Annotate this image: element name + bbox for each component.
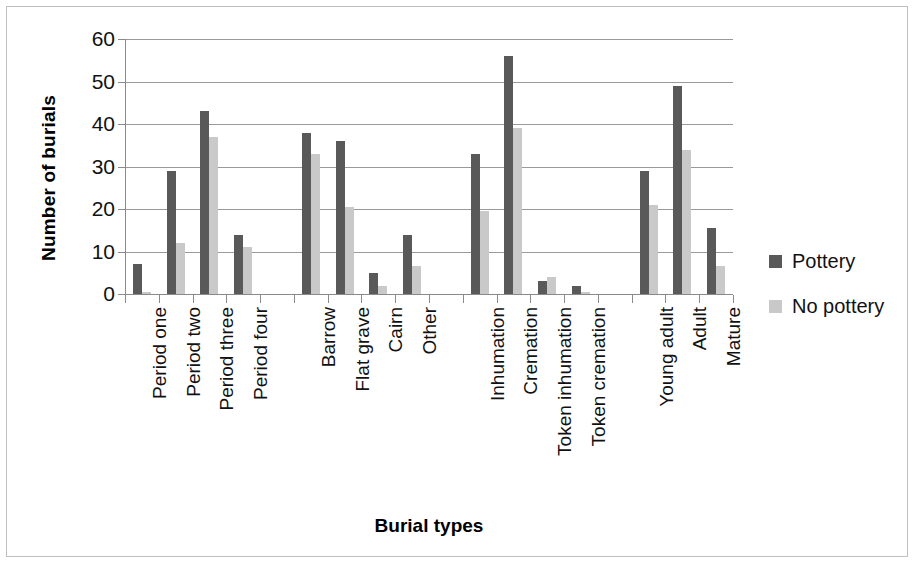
x-axis-tick-label: Flat grave <box>353 307 372 391</box>
x-axis-tick <box>193 295 194 303</box>
x-axis-tick <box>159 295 160 303</box>
x-axis-tick <box>260 295 261 303</box>
y-axis-tick-label: 60 <box>45 28 115 49</box>
chart-legend: PotteryNo pottery <box>769 250 884 340</box>
x-axis-tick <box>598 295 599 303</box>
x-axis-title: Burial types <box>125 515 733 537</box>
bar <box>504 56 513 294</box>
x-axis-tick <box>632 295 633 303</box>
x-axis-tick <box>530 295 531 303</box>
x-axis-tick-label: Period one <box>150 307 169 399</box>
x-axis-tick <box>497 295 498 303</box>
gridline <box>125 124 733 125</box>
y-axis-tick <box>118 294 125 295</box>
x-axis-tick-label: Mature <box>724 307 743 366</box>
y-axis-tick <box>118 167 125 168</box>
gridline <box>125 39 733 40</box>
x-axis-tick-label: Period four <box>251 307 270 400</box>
x-axis-tick <box>294 295 295 303</box>
y-axis-tick-label: 30 <box>45 156 115 177</box>
legend-swatch-icon <box>769 255 782 268</box>
bar <box>378 286 387 295</box>
bar <box>209 137 218 294</box>
bar <box>133 264 142 294</box>
x-axis-tick-label: Other <box>420 307 439 355</box>
x-axis-tick <box>733 295 734 303</box>
x-axis-tick <box>665 295 666 303</box>
bar <box>707 228 716 294</box>
y-axis-tick <box>118 209 125 210</box>
legend-label: Pottery <box>792 250 855 273</box>
x-axis-tick <box>463 295 464 303</box>
x-axis-tick-label: Period three <box>217 307 236 411</box>
bar <box>311 154 320 294</box>
bar <box>403 235 412 295</box>
bar <box>336 141 345 294</box>
x-axis-tick-label: Adult <box>690 307 709 350</box>
x-axis-tick-label: Token inhumation <box>555 307 574 456</box>
x-axis-tick <box>699 295 700 303</box>
legend-swatch-icon <box>769 300 782 313</box>
legend-item: Pottery <box>769 250 884 273</box>
legend-item: No pottery <box>769 295 884 318</box>
bar <box>716 266 725 294</box>
bar <box>234 235 243 295</box>
x-axis-tick-label: Inhumation <box>488 307 507 401</box>
bar <box>200 111 209 294</box>
y-axis-tick <box>118 39 125 40</box>
x-axis-tick <box>361 295 362 303</box>
bar <box>412 266 421 294</box>
x-axis-tick <box>395 295 396 303</box>
x-axis-tick <box>226 295 227 303</box>
x-axis-tick-label: Young adult <box>657 307 676 407</box>
x-axis-tick <box>429 295 430 303</box>
y-axis-tick-label: 20 <box>45 198 115 219</box>
bar <box>572 286 581 295</box>
y-axis-line <box>125 39 126 295</box>
bar <box>345 207 354 294</box>
bar <box>369 273 378 294</box>
x-axis-tick <box>328 295 329 303</box>
bar <box>640 171 649 294</box>
bar <box>176 243 185 294</box>
bar <box>471 154 480 294</box>
x-axis-tick-label: Period two <box>184 307 203 397</box>
plot-area <box>125 39 733 294</box>
x-axis-tick-label: Cairn <box>386 307 405 352</box>
y-axis-tick <box>118 124 125 125</box>
bar <box>682 150 691 295</box>
x-axis-tick-label: Token cremation <box>589 307 608 446</box>
gridline <box>125 82 733 83</box>
x-axis-tick-label: Barrow <box>319 307 338 367</box>
y-axis-tick <box>118 252 125 253</box>
x-axis-tick <box>125 295 126 303</box>
bar <box>673 86 682 294</box>
bar <box>513 128 522 294</box>
chart-frame: Number of burials 6050403020100 Burial t… <box>6 6 908 557</box>
bar <box>649 205 658 294</box>
legend-label: No pottery <box>792 295 884 318</box>
y-axis-tick <box>118 82 125 83</box>
bar <box>538 281 547 294</box>
x-axis-tick <box>564 295 565 303</box>
bar <box>547 277 556 294</box>
y-axis-tick-label: 0 <box>45 283 115 304</box>
y-axis-tick-label: 50 <box>45 71 115 92</box>
bar <box>480 211 489 294</box>
y-axis-tick-label: 40 <box>45 113 115 134</box>
bar <box>302 133 311 295</box>
x-axis-tick-label: Cremation <box>521 307 540 395</box>
bar <box>243 247 252 294</box>
y-axis-tick-label: 10 <box>45 241 115 262</box>
y-axis-tick-labels: 6050403020100 <box>39 7 115 307</box>
bar <box>167 171 176 294</box>
